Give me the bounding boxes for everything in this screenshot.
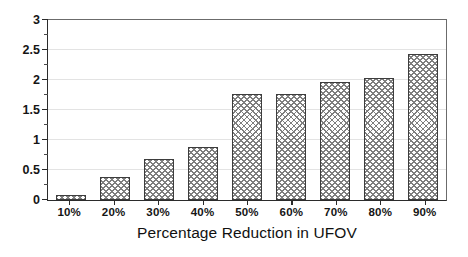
bar-slot (93, 20, 137, 200)
bar (364, 78, 394, 200)
y-axis-tick (42, 109, 48, 110)
x-axis-tick (380, 201, 381, 205)
bar (320, 82, 350, 200)
bar (188, 147, 218, 200)
bar (276, 94, 306, 200)
y-axis-minor-tick (44, 64, 48, 65)
y-axis-tick-label: 3 (33, 14, 40, 27)
x-axis-tick-label: 30% (136, 206, 180, 218)
bar-slot (137, 20, 181, 200)
x-axis-tick (158, 201, 159, 205)
x-axis-tick-label: 50% (225, 206, 269, 218)
y-axis-tick (42, 199, 48, 200)
x-axis-tick-label: 70% (314, 206, 358, 218)
bar (232, 94, 262, 200)
y-axis-tick-label: 0.5 (23, 164, 40, 177)
bar-slot (181, 20, 225, 200)
bar-series (49, 20, 445, 200)
bar-slot (357, 20, 401, 200)
y-axis-tick (42, 19, 48, 20)
bar-slot (269, 20, 313, 200)
x-axis-tick (203, 201, 204, 205)
y-axis-tick-label: 2 (33, 74, 40, 87)
bar (56, 195, 86, 200)
bar-chart-figure: 00.511.522.53 10%20%30%40%50%60%70%80%90… (0, 0, 468, 257)
plot-area: 00.511.522.53 (47, 19, 447, 201)
x-axis-tick-label: 80% (358, 206, 402, 218)
x-axis-tick-label: 10% (47, 206, 91, 218)
bar-slot (313, 20, 357, 200)
y-axis-tick (42, 49, 48, 50)
x-axis-tick (336, 201, 337, 205)
x-axis-tick (425, 201, 426, 205)
x-axis-tick-label: 90% (403, 206, 447, 218)
bar (100, 177, 130, 200)
y-axis-tick (42, 169, 48, 170)
y-axis-tick (42, 139, 48, 140)
bar (144, 159, 174, 200)
y-axis-minor-tick (44, 184, 48, 185)
x-axis-tick-label: 60% (269, 206, 313, 218)
y-axis-minor-tick (44, 124, 48, 125)
y-axis-tick-label: 2.5 (23, 44, 40, 57)
x-axis-tick (291, 201, 292, 205)
x-axis-tick (247, 201, 248, 205)
y-axis-minor-tick (44, 154, 48, 155)
y-axis-tick-label: 0 (33, 194, 40, 207)
bar-slot (49, 20, 93, 200)
bar-slot (401, 20, 445, 200)
y-axis-minor-tick (44, 34, 48, 35)
bar-slot (225, 20, 269, 200)
x-axis-title: Percentage Reduction in UFOV (47, 224, 447, 242)
y-axis-tick (42, 79, 48, 80)
x-axis-tick (69, 201, 70, 205)
bar (408, 54, 438, 200)
x-axis-tick-label: 40% (180, 206, 224, 218)
y-axis-tick-label: 1 (33, 134, 40, 147)
x-axis-tick-labels: 10%20%30%40%50%60%70%80%90% (47, 206, 447, 218)
y-axis-minor-tick (44, 94, 48, 95)
x-axis-tick-label: 20% (91, 206, 135, 218)
x-axis-tick (114, 201, 115, 205)
y-axis-tick-label: 1.5 (23, 104, 40, 117)
